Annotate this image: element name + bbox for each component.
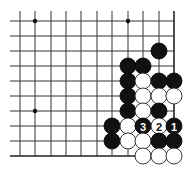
- white-stone-icon: [135, 73, 151, 89]
- white-stone-icon: [135, 133, 151, 149]
- black-stone: 3: [135, 118, 151, 134]
- black-stone-icon: [120, 73, 136, 89]
- star-point-icon: [126, 19, 130, 23]
- white-stone-icon: [120, 133, 136, 149]
- white-stone: [151, 88, 167, 104]
- white-stone: [120, 133, 136, 149]
- black-stone-icon: [120, 58, 136, 74]
- white-stone-icon: [120, 118, 136, 134]
- white-stone: [135, 148, 151, 164]
- black-stone: [151, 73, 167, 89]
- black-stone-icon: [166, 73, 182, 89]
- black-stone: [151, 133, 167, 149]
- black-stone: [135, 58, 151, 74]
- black-stone-icon: [151, 43, 167, 59]
- white-stone: [151, 148, 167, 164]
- white-stone-icon: [151, 88, 167, 104]
- black-stone: [151, 43, 167, 59]
- white-stone-icon: [151, 148, 167, 164]
- star-point-icon: [33, 109, 37, 113]
- black-stone: [151, 103, 167, 119]
- move-number-label: 1: [171, 121, 177, 133]
- black-stone-icon: [104, 133, 120, 149]
- black-stone-icon: [104, 118, 120, 134]
- black-stone-icon: [151, 103, 167, 119]
- move-number-label: 2: [156, 121, 162, 133]
- black-stone: 1: [166, 118, 182, 134]
- move-number-label: 3: [140, 121, 146, 133]
- white-stone-icon: [166, 88, 182, 104]
- black-stone-icon: [120, 103, 136, 119]
- white-stone: [166, 148, 182, 164]
- go-board-diagram: 321: [0, 0, 194, 169]
- white-stone: [135, 73, 151, 89]
- black-stone-icon: [166, 133, 182, 149]
- white-stone: [120, 118, 136, 134]
- white-stone: [135, 133, 151, 149]
- white-stone: [135, 88, 151, 104]
- black-stone-icon: [135, 58, 151, 74]
- black-stone: [166, 73, 182, 89]
- white-stone: [135, 103, 151, 119]
- black-stone: [166, 133, 182, 149]
- white-stone: 2: [151, 118, 167, 134]
- white-stone-icon: [135, 148, 151, 164]
- black-stone: [120, 103, 136, 119]
- white-stone: [166, 88, 182, 104]
- stones-layer: 321: [104, 43, 182, 164]
- black-stone: [104, 133, 120, 149]
- white-stone-icon: [166, 148, 182, 164]
- black-stone-icon: [151, 73, 167, 89]
- black-stone: [120, 88, 136, 104]
- white-stone-icon: [135, 88, 151, 104]
- black-stone: [104, 118, 120, 134]
- black-stone: [120, 58, 136, 74]
- star-point-icon: [33, 19, 37, 23]
- black-stone-icon: [151, 133, 167, 149]
- black-stone-icon: [120, 88, 136, 104]
- black-stone: [120, 73, 136, 89]
- white-stone-icon: [135, 103, 151, 119]
